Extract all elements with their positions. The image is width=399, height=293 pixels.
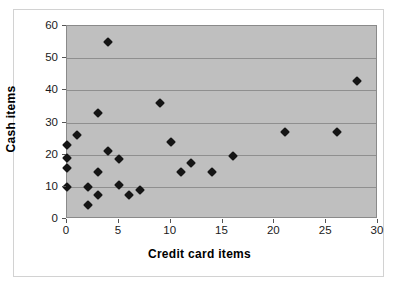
data-point	[93, 167, 103, 177]
x-tick-mark-30	[377, 219, 378, 223]
y-tick-mark-20	[62, 154, 66, 155]
y-tick-mark-40	[62, 89, 66, 90]
data-point	[332, 127, 342, 137]
x-tick-mark-5	[118, 219, 119, 223]
gridline-y-50	[67, 58, 376, 59]
y-tick-label-60: 60	[32, 19, 58, 31]
y-tick-label-30: 30	[32, 116, 58, 128]
x-tick-label-15: 15	[215, 224, 228, 236]
y-tick-mark-30	[62, 122, 66, 123]
data-point	[83, 182, 93, 192]
x-axis-label: Credit card items	[0, 247, 399, 261]
x-tick-mark-15	[222, 219, 223, 223]
data-point	[114, 180, 124, 190]
data-point	[114, 155, 124, 165]
y-tick-label-40: 40	[32, 83, 58, 95]
data-point	[186, 158, 196, 168]
x-tick-mark-0	[66, 219, 67, 223]
x-tick-label-20: 20	[267, 224, 280, 236]
gridline-y-30	[67, 123, 376, 124]
x-tick-label-5: 5	[115, 224, 121, 236]
x-tick-label-0: 0	[63, 224, 69, 236]
x-tick-label-10: 10	[163, 224, 176, 236]
y-tick-mark-60	[62, 25, 66, 26]
x-tick-mark-25	[325, 219, 326, 223]
x-tick-label-30: 30	[371, 224, 384, 236]
y-tick-label-0: 0	[32, 212, 58, 224]
y-tick-label-20: 20	[32, 148, 58, 160]
data-point	[228, 151, 238, 161]
data-point	[104, 37, 114, 47]
gridline-y-20	[67, 155, 376, 156]
y-tick-mark-50	[62, 57, 66, 58]
data-point	[207, 167, 217, 177]
y-axis-label: Cash items	[4, 44, 18, 194]
scatter-plot-figure: 0102030405060 051015202530 Credit card i…	[0, 0, 399, 293]
data-point	[124, 190, 134, 200]
x-tick-label-25: 25	[319, 224, 332, 236]
data-point	[93, 108, 103, 118]
x-tick-mark-10	[170, 219, 171, 223]
data-point	[155, 98, 165, 108]
gridline-y-40	[67, 90, 376, 91]
y-tick-label-50: 50	[32, 51, 58, 63]
data-point	[280, 127, 290, 137]
plot-area	[66, 25, 377, 218]
x-tick-mark-20	[273, 219, 274, 223]
data-point	[166, 137, 176, 147]
data-point	[352, 76, 362, 86]
gridline-y-10	[67, 187, 376, 188]
y-tick-label-10: 10	[32, 180, 58, 192]
data-point	[176, 167, 186, 177]
y-tick-mark-10	[62, 186, 66, 187]
data-point	[72, 130, 82, 140]
data-point	[83, 200, 93, 210]
data-point	[93, 190, 103, 200]
